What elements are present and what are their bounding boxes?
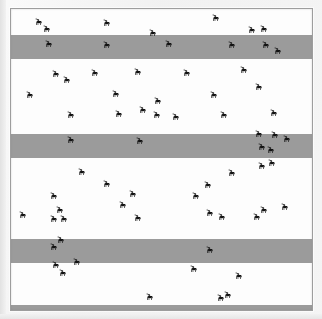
moose-silhouette-icon (219, 110, 228, 119)
moose-silhouette-icon (153, 96, 162, 105)
moose-silhouette-icon (25, 90, 34, 99)
moose-silhouette-icon (209, 90, 218, 99)
moose-silhouette-icon (145, 292, 154, 301)
moose-silhouette-icon (148, 28, 157, 37)
moose-silhouette-icon (42, 24, 51, 33)
moose-silhouette-icon (266, 145, 275, 154)
page-edge-bottom (0, 314, 322, 319)
moose-silhouette-icon (62, 75, 71, 84)
moose-silhouette-icon (18, 210, 27, 219)
moose-silhouette-icon (217, 212, 226, 221)
moose-silhouette-icon (270, 130, 279, 139)
moose-silhouette-icon (49, 242, 58, 251)
page-edge-left (0, 0, 6, 319)
moose-silhouette-icon (102, 18, 111, 27)
moose-silhouette-icon (182, 68, 191, 77)
moose-silhouette-icon (135, 136, 144, 145)
moose-silhouette-icon (51, 69, 60, 78)
moose-silhouette-icon (66, 135, 75, 144)
moose-silhouette-icon (133, 213, 142, 222)
moose-silhouette-icon (259, 24, 268, 33)
moose-silhouette-icon (227, 168, 236, 177)
moose-silhouette-icon (102, 40, 111, 49)
moose-silhouette-icon (205, 208, 214, 217)
moose-silhouette-icon (171, 112, 180, 121)
moose-silhouette-icon (254, 129, 263, 138)
moose-silhouette-icon (205, 245, 214, 254)
plot-area (11, 9, 312, 310)
moose-silhouette-icon (227, 40, 236, 49)
moose-silhouette-icon (239, 65, 248, 74)
moose-silhouette-icon (128, 189, 137, 198)
moose-silhouette-icon (254, 82, 263, 91)
moose-silhouette-icon (269, 108, 278, 117)
moose-silhouette-icon (58, 268, 67, 277)
moose-silhouette-icon (138, 105, 147, 114)
moose-silhouette-icon (111, 89, 120, 98)
moose-silhouette-icon (118, 200, 127, 209)
moose-silhouette-icon (280, 202, 289, 211)
moose-silhouette-icon (282, 134, 291, 143)
moose-silhouette-icon (261, 40, 270, 49)
moose-silhouette-icon (59, 214, 68, 223)
moose-silhouette-icon (273, 46, 282, 55)
moose-silhouette-icon (49, 214, 58, 223)
moose-silhouette-icon (55, 205, 64, 214)
moose-silhouette-icon (211, 13, 220, 22)
moose-silhouette-icon (257, 161, 266, 170)
moose-silhouette-icon (164, 39, 173, 48)
moose-silhouette-icon (234, 271, 243, 280)
moose-silhouette-icon (102, 179, 111, 188)
moose-silhouette-icon (90, 68, 99, 77)
moose-silhouette-icon (49, 191, 58, 200)
moose-silhouette-icon (191, 191, 200, 200)
moose-silhouette-icon (189, 264, 198, 273)
moose-silhouette-icon (66, 110, 75, 119)
moose-silhouette-icon (152, 110, 161, 119)
moose-silhouette-icon (257, 142, 266, 151)
moose-silhouette-icon (44, 39, 53, 48)
moose-silhouette-icon (114, 109, 123, 118)
moose-silhouette-icon (77, 167, 86, 176)
moose-silhouette-icon (133, 67, 142, 76)
transect-strip-4 (11, 305, 312, 311)
plot-frame (10, 8, 313, 311)
moose-silhouette-icon (247, 25, 256, 34)
figure-root (0, 0, 322, 319)
moose-silhouette-icon (216, 293, 225, 302)
moose-silhouette-icon (203, 180, 212, 189)
moose-silhouette-icon (267, 158, 276, 167)
moose-silhouette-icon (252, 212, 261, 221)
moose-silhouette-icon (72, 257, 81, 266)
